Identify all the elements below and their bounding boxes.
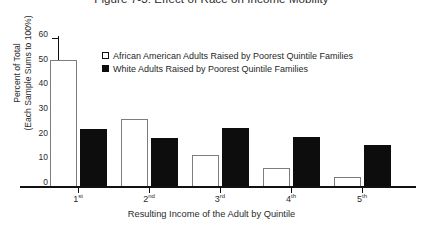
legend-label: African American Adults Raised by Poores… bbox=[113, 51, 353, 61]
x-axis-tick-label: 1st bbox=[58, 194, 98, 204]
y-axis-title: Percent of Total (Each Sample Sums to 10… bbox=[12, 0, 34, 153]
y-axis-tick bbox=[52, 186, 59, 187]
bar bbox=[50, 60, 77, 186]
bar bbox=[334, 177, 361, 186]
y-axis-title-line2: (Each Sample Sums to 100%) bbox=[23, 0, 34, 153]
x-axis-tick-label: 4th bbox=[271, 194, 311, 204]
legend-swatch-filled-icon bbox=[102, 65, 109, 72]
legend-item: White Adults Raised by Poorest Quintile … bbox=[102, 62, 353, 75]
bar bbox=[151, 138, 178, 186]
bar bbox=[192, 155, 219, 186]
bar bbox=[222, 128, 249, 186]
legend-label: White Adults Raised by Poorest Quintile … bbox=[113, 64, 308, 74]
y-axis-tick-label: 10 bbox=[6, 153, 48, 162]
y-axis-tick bbox=[52, 38, 59, 39]
y-axis-tick-label: 0 bbox=[6, 178, 48, 187]
chart-plot-area: 0102030405060 Percent of Total (Each Sam… bbox=[0, 0, 423, 226]
x-axis-tick-label: 2nd bbox=[129, 194, 169, 204]
bar bbox=[121, 119, 148, 186]
bar bbox=[364, 145, 391, 186]
y-axis-title-line1: Percent of Total bbox=[12, 43, 22, 103]
legend-swatch-open-icon bbox=[102, 52, 109, 59]
legend-item: African American Adults Raised by Poores… bbox=[102, 49, 353, 62]
x-axis-tick-label: 3rd bbox=[200, 194, 240, 204]
x-axis-title: Resulting Income of the Adult by Quintil… bbox=[0, 209, 423, 219]
x-axis-line bbox=[20, 186, 416, 188]
bar bbox=[293, 137, 320, 186]
x-axis-tick-label: 5th bbox=[342, 194, 382, 204]
bar bbox=[263, 168, 290, 187]
chart-legend: African American Adults Raised by Poores… bbox=[102, 47, 353, 75]
bar bbox=[80, 129, 107, 186]
